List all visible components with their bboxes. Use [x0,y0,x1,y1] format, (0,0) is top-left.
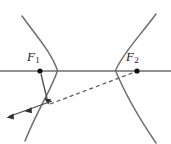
focus-left-label: F1 [27,50,40,65]
figure-canvas [0,0,171,144]
focus-left-label-letter: F [27,49,35,64]
focus-right-marker [134,68,139,73]
focus-right-label: F2 [126,50,139,65]
hyperbola-left-branch [22,16,58,141]
focus-right-label-subscript: 2 [134,55,139,65]
focus-left-marker [37,68,42,73]
hyperbola-right-branch [116,14,157,143]
dashed-focal-line [50,72,135,104]
hyperbola-reflection-figure: F1 F2 [0,0,171,144]
focus-left-label-subscript: 1 [35,55,40,65]
focus-right-label-letter: F [126,49,134,64]
outgoing-ray-end-arrowhead [7,113,14,119]
incident-ray-line [41,74,47,101]
